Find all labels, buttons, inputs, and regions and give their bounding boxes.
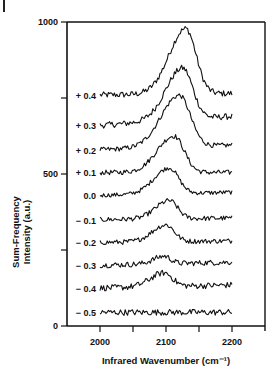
- spectrum-trace: [100, 27, 232, 98]
- trace-label: + 0.3: [76, 121, 96, 131]
- x-axis-title: Infrared Wavenumber (cm⁻¹): [102, 355, 230, 366]
- trace-label: + 0.4: [76, 91, 96, 101]
- spectrum-trace: [100, 65, 232, 128]
- trace-labels: + 0.4+ 0.3+ 0.2+ 0.10.0− 0.1− 0.2− 0.3− …: [76, 91, 96, 318]
- spectra-traces: [100, 27, 232, 316]
- spectrum-trace: [100, 270, 232, 291]
- spectrum-trace: [100, 310, 232, 316]
- spectrum-trace: [100, 135, 232, 175]
- y-tick-label: 500: [43, 169, 58, 179]
- sfg-spectra-chart: 05001000200021002200 + 0.4+ 0.3+ 0.2+ 0.…: [0, 0, 280, 377]
- trace-label: − 0.4: [76, 284, 96, 294]
- spectrum-trace: [100, 199, 232, 222]
- trace-label: − 0.3: [76, 261, 96, 271]
- trace-label: − 0.5: [76, 308, 96, 318]
- trace-label: − 0.2: [76, 238, 96, 248]
- y-tick-label: 0: [53, 321, 58, 331]
- y-axis-title: Sum-Frequency: [10, 195, 21, 268]
- y-axis-title-line2: Intensity (a.u.): [21, 200, 32, 264]
- x-tick-label: 2200: [222, 337, 242, 347]
- trace-label: 0.0: [83, 191, 96, 201]
- x-tick-label: 2000: [90, 337, 110, 347]
- x-tick-label: 2100: [156, 337, 176, 347]
- trace-label: + 0.2: [76, 146, 96, 156]
- y-tick-label: 1000: [38, 17, 58, 27]
- trace-label: + 0.1: [76, 168, 96, 178]
- trace-label: − 0.1: [76, 216, 96, 226]
- spectrum-trace: [100, 255, 232, 267]
- spectrum-trace: [100, 224, 232, 244]
